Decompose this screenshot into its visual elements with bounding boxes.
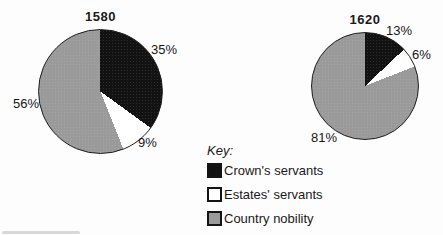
- legend-item-label: Crown's servants: [224, 163, 323, 178]
- pie-1580-title: 1580: [38, 9, 163, 24]
- pie-chart-1620: [311, 32, 419, 140]
- legend-item-crowns-servants: Crown's servants: [207, 163, 323, 177]
- pie-charts-figure: 1580 35% 9% 56% 1620 13% 6% 81% Key: Cro…: [0, 0, 443, 235]
- pie-1620-label-estates-servants: 6%: [412, 47, 431, 62]
- pie-1580-label-estates-servants: 9%: [138, 135, 157, 150]
- legend-item-country-nobility: Country nobility: [207, 211, 323, 225]
- scan-artifact: [2, 231, 80, 234]
- legend-item-estates-servants: Estates' servants: [207, 187, 323, 201]
- legend-item-label: Country nobility: [224, 211, 314, 226]
- pie-1580-label-country-nobility: 56%: [13, 96, 39, 111]
- legend-title: Key:: [207, 143, 323, 158]
- estates-servants-swatch-icon: [207, 187, 222, 202]
- country-nobility-swatch-icon: [207, 211, 222, 226]
- pie-1580-label-crowns-servants: 35%: [151, 42, 177, 57]
- legend: Key: Crown's servants Estates' servants …: [207, 143, 323, 235]
- pie-1620-label-crowns-servants: 13%: [386, 23, 412, 38]
- crowns-servants-swatch-icon: [207, 163, 222, 178]
- legend-item-label: Estates' servants: [224, 187, 323, 202]
